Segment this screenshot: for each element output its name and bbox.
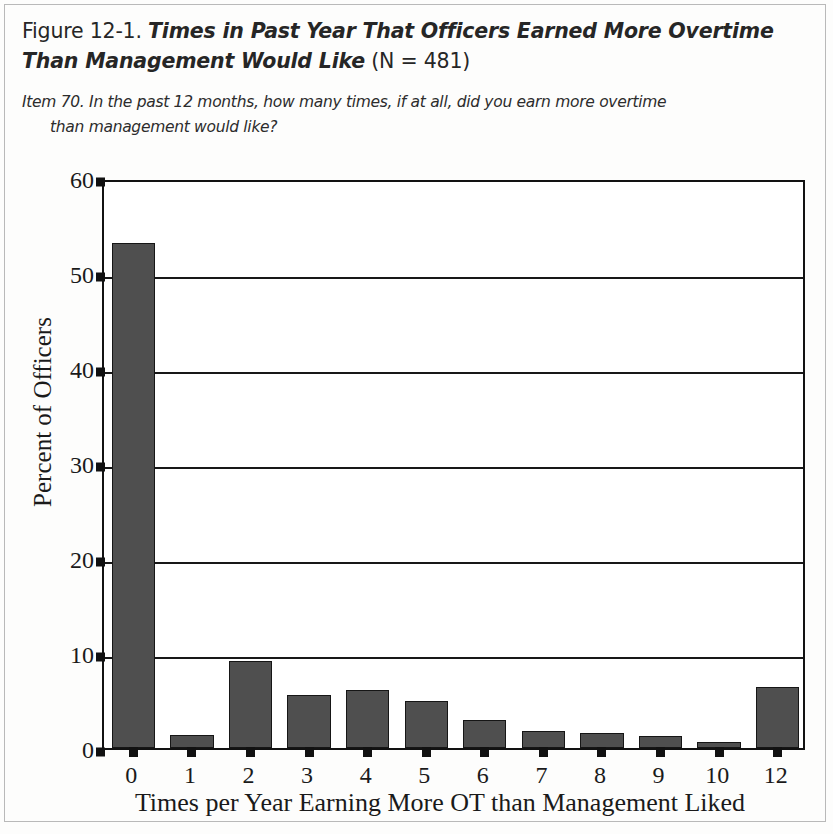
y-axis-tick-labels: 0102030405060 [42,0,94,834]
x-tick-label: 8 [575,762,625,789]
plot-area [102,180,805,750]
bar-1 [170,735,213,748]
y-gridline [104,372,803,374]
x-tick-mark [246,747,255,757]
y-tick-mark [96,463,105,472]
y-tick-label: 40 [48,357,94,384]
y-tick-mark [96,558,105,567]
y-tick-label: 20 [48,547,94,574]
y-tick-label: 10 [48,642,94,669]
y-tick-mark [96,748,105,757]
bar-3 [287,695,330,748]
bar-5 [405,701,448,749]
y-gridline [104,467,803,469]
bar-4 [346,690,389,748]
y-tick-label: 50 [48,262,94,289]
x-tick-label: 4 [341,762,391,789]
bar-chart: Percent of Officers 0102030405060 Times … [0,0,833,834]
y-gridline [104,277,803,279]
bar-8 [580,733,623,748]
x-tick-mark [422,747,431,757]
bar-12 [756,687,799,748]
x-tick-mark [715,747,724,757]
bar-0 [112,243,155,748]
y-tick-label: 60 [48,167,94,194]
x-tick-label: 9 [634,762,684,789]
y-tick-mark [96,368,105,377]
x-tick-label: 10 [692,762,742,789]
figure-page: Figure 12-1. Times in Past Year That Off… [0,0,833,834]
x-tick-mark [539,747,548,757]
x-tick-mark [597,747,606,757]
y-gridline [104,562,803,564]
x-tick-mark [305,747,314,757]
bar-6 [463,720,506,749]
x-tick-label: 2 [223,762,273,789]
y-gridline [104,657,803,659]
y-tick-mark [96,273,105,282]
x-tick-label: 7 [516,762,566,789]
x-tick-label: 3 [282,762,332,789]
x-tick-mark [129,747,138,757]
x-axis-label: Times per Year Earning More OT than Mana… [60,788,820,818]
x-tick-label: 1 [165,762,215,789]
x-tick-label: 0 [106,762,156,789]
x-tick-mark [187,747,196,757]
y-tick-label: 30 [48,452,94,479]
x-tick-mark [480,747,489,757]
y-tick-mark [96,178,105,187]
y-tick-label: 0 [48,737,94,764]
x-tick-label: 6 [458,762,508,789]
y-tick-mark [96,653,105,662]
x-tick-label: 5 [399,762,449,789]
x-tick-mark [656,747,665,757]
bar-7 [522,731,565,748]
x-tick-mark [773,747,782,757]
bar-2 [229,661,272,748]
x-tick-mark [363,747,372,757]
x-tick-label: 12 [751,762,801,789]
